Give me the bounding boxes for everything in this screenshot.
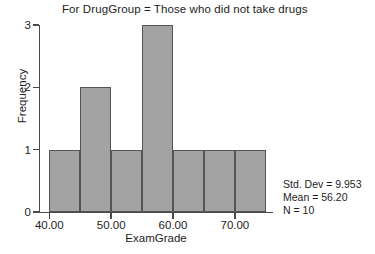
std-dev-text: Std. Dev = 9.953: [283, 178, 362, 191]
y-axis-title: Frequency: [16, 36, 28, 156]
y-tick-label: 0: [3, 206, 31, 218]
histogram-bar: [173, 150, 204, 212]
x-tick-label: 70.00: [205, 219, 265, 231]
y-tick-mark: [33, 87, 39, 88]
x-tick-mark: [110, 213, 111, 219]
y-tick-mark: [33, 211, 39, 212]
plot-area: [40, 25, 272, 212]
histogram-bar: [235, 150, 266, 212]
statistics-annotation: Std. Dev = 9.953 Mean = 56.20 N = 10: [283, 178, 362, 218]
histogram-bar: [204, 150, 235, 212]
y-tick-label: 3: [3, 19, 31, 31]
histogram-bar: [49, 150, 80, 212]
x-tick-mark: [234, 213, 235, 219]
y-tick-label: 2: [3, 81, 31, 93]
mean-text: Mean = 56.20: [283, 191, 362, 204]
histogram-figure: For DrugGroup = Those who did not take d…: [0, 0, 375, 254]
chart-title: For DrugGroup = Those who did not take d…: [62, 2, 308, 16]
histogram-bar: [80, 87, 111, 212]
x-tick-label: 50.00: [81, 219, 141, 231]
y-tick-label: 1: [3, 144, 31, 156]
x-tick-mark: [49, 213, 50, 219]
y-tick-mark: [33, 149, 39, 150]
sample-size-text: N = 10: [283, 204, 362, 217]
x-tick-mark: [172, 213, 173, 219]
histogram-bar: [142, 25, 173, 212]
y-tick-mark: [33, 24, 39, 25]
x-axis-title: ExamGrade: [40, 232, 272, 244]
histogram-bar: [111, 150, 142, 212]
x-tick-label: 60.00: [143, 219, 203, 231]
x-tick-label: 40.00: [19, 219, 79, 231]
